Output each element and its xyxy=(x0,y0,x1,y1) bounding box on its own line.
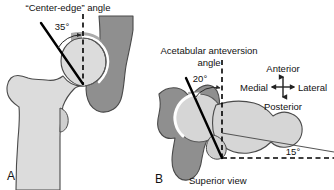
panel-a-marker: A xyxy=(7,169,15,183)
compass-label-lateral: Lateral xyxy=(298,82,327,93)
hip-angle-figure: 35° “Center-edge” angle A 20° 15° Acetab… xyxy=(0,0,334,190)
panel-b-title-line2: angle xyxy=(197,57,220,68)
panel-a-angle-label: 35° xyxy=(55,21,70,32)
panel-b-angle-label: 20° xyxy=(193,73,208,84)
compass-label-medial: Medial xyxy=(240,82,268,93)
panel-a-title: “Center-edge” angle xyxy=(25,2,110,13)
compass-label-posterior: Posterior xyxy=(264,101,302,112)
panel-b-view-label: Superior view xyxy=(189,175,247,186)
panel-b-marker: B xyxy=(155,172,163,186)
panel-b-secondary-angle-label: 15° xyxy=(286,146,301,157)
compass-label-anterior: Anterior xyxy=(266,63,299,74)
panel-b-title-line1: Acetabular anteversion xyxy=(160,45,257,56)
